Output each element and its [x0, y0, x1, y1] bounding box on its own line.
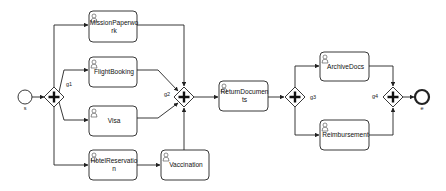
sequence-flow-f-archive-g4[interactable] — [369, 66, 393, 86]
task-label: FlightBooking — [94, 68, 134, 76]
task-label: ts — [242, 96, 248, 103]
start-event-label: s — [24, 105, 27, 111]
parallel-gateway-g3[interactable]: g3 — [285, 87, 316, 107]
task-label: HotelReservatio — [91, 157, 138, 164]
task-label: rk — [111, 27, 117, 34]
sequence-flow-f-g3-archive[interactable] — [295, 66, 319, 87]
sequence-flow-f-g3-reimb[interactable] — [295, 107, 319, 135]
task-label: Vaccination — [169, 161, 203, 168]
user-task-visa[interactable]: Visa — [89, 106, 137, 136]
sequence-flow-f-visa-g2[interactable] — [137, 103, 178, 118]
sequence-flow-f-g1-visa[interactable] — [59, 102, 88, 120]
user-task-vaccination[interactable]: Vaccination — [161, 150, 209, 180]
task-label: MissionPaperwo — [90, 19, 139, 27]
task-label: Visa — [108, 117, 121, 124]
parallel-gateway-g4[interactable]: g4 — [372, 87, 403, 107]
sequence-flow-f-g1-flight[interactable] — [59, 70, 88, 92]
user-task-mission[interactable]: MissionPaperwork — [89, 11, 139, 42]
start-event-circle[interactable] — [18, 90, 32, 104]
gateway-label: g1 — [66, 81, 72, 87]
end-event-circle[interactable] — [415, 90, 429, 104]
parallel-gateway-g2[interactable]: g2 — [164, 87, 194, 107]
user-task-archive[interactable]: ArchiveDocs — [320, 52, 369, 81]
task-label: n — [112, 165, 116, 172]
sequence-flow-f-g1-hotel[interactable] — [54, 107, 88, 165]
start-event[interactable]: s — [18, 90, 32, 111]
gateway-label: g4 — [372, 93, 378, 99]
task-label: ArchiveDocs — [327, 63, 365, 70]
sequence-flow-f-flight-g2[interactable] — [137, 70, 178, 91]
user-task-hotel[interactable]: HotelReservation — [89, 150, 138, 180]
sequence-flow-f-mission-g2[interactable] — [137, 25, 184, 86]
flow-nodes: seg1g2g3g4MissionPaperworkFlightBookingV… — [18, 11, 429, 180]
task-label: Reimbursement — [322, 131, 369, 138]
gateway-label: g2 — [164, 91, 170, 97]
end-event-label: e — [420, 105, 423, 111]
user-task-flight[interactable]: FlightBooking — [89, 57, 137, 87]
gateway-label: g3 — [310, 94, 316, 100]
sequence-flow-f-reimb-g4[interactable] — [369, 108, 393, 135]
bpmn-diagram-canvas: seg1g2g3g4MissionPaperworkFlightBookingV… — [0, 0, 446, 191]
parallel-gateway-g1[interactable]: g1 — [44, 81, 72, 107]
user-task-reimbursement[interactable]: Reimbursement — [320, 120, 369, 150]
task-label: ReturnDocumen — [220, 88, 268, 95]
user-task-return[interactable]: ReturnDocuments — [219, 81, 269, 111]
sequence-flow-f-g1-mission[interactable] — [54, 25, 88, 87]
end-event[interactable]: e — [415, 90, 429, 111]
